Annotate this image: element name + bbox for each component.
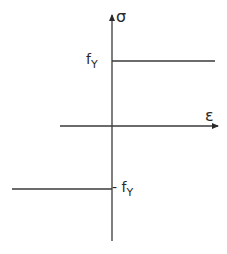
lower-yield-label: - fY <box>112 179 133 199</box>
upper-yield-label: fY <box>86 51 98 71</box>
sigma-axis-label: σ <box>116 7 126 26</box>
stress-strain-diagram: σ ε fY - fY <box>0 0 227 254</box>
epsilon-axis-label: ε <box>205 106 214 125</box>
